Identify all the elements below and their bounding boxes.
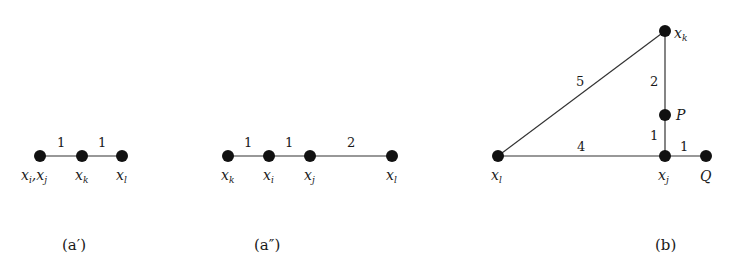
node-q [700,150,712,162]
node-xl [386,150,398,162]
node-xk [659,25,671,37]
node-label-p: P [675,107,686,123]
node-label-xl: xl [386,167,397,185]
figure-a-prime: 1 1 xi,xj xk xl (a′) [21,135,128,254]
caption-a-prime: (a′) [62,236,86,254]
figure-b: 5 2 1 4 1 xk P xj Q xl (b) [491,25,712,254]
figure-a-double-prime: 1 1 2 xk xi xj xl (a″) [221,135,398,254]
node-xl [492,150,504,162]
node-xj [659,150,671,162]
node-label-xj: xj [658,167,669,185]
node-label-xl: xl [116,167,127,185]
node-xk [76,150,88,162]
weight-label: 1 [650,128,658,143]
weight-label: 2 [650,74,658,89]
node-p [659,109,671,121]
node-label-xk: xk [221,167,234,185]
weight-label: 5 [576,74,584,89]
node-xl [116,150,128,162]
node-xj [304,150,316,162]
weight-label: 1 [57,135,65,150]
node-label-xk: xk [674,25,687,43]
weight-label: 1 [285,135,293,150]
node-label-xj: xj [304,167,315,185]
node-label-xl: xl [491,167,502,185]
node-label-xk: xk [75,167,88,185]
caption-a-double-prime: (a″) [254,236,280,254]
edge-xl-xk [498,31,665,156]
diagram-canvas: 1 1 xi,xj xk xl (a′) 1 1 2 xk xi xj xl (… [0,0,741,278]
weight-label: 1 [680,139,688,154]
weight-label: 1 [244,135,252,150]
node-label-q: Q [700,168,712,184]
node-xi [263,150,275,162]
weight-label: 2 [347,135,355,150]
node-label-xi-xj: xi,xj [21,167,47,185]
node-xi-xj [34,150,46,162]
weight-label: 4 [577,139,585,154]
caption-b: (b) [655,236,676,254]
node-xk [222,150,234,162]
node-label-xi: xi [263,167,274,185]
weight-label: 1 [98,135,106,150]
